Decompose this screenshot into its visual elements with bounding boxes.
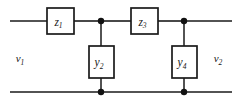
y4-subscript: 4 <box>183 62 187 71</box>
node-bottom-right <box>181 89 187 95</box>
y2-subscript: 2 <box>100 62 104 71</box>
v1-label: v1 <box>16 52 25 67</box>
z3-subscript: 3 <box>142 21 147 30</box>
node-top-left <box>98 18 104 24</box>
series-element-z3[interactable]: z3 <box>131 8 158 34</box>
port-label-v1: v1 <box>16 52 25 67</box>
v1-subscript: 1 <box>21 58 25 67</box>
series-element-z1[interactable]: z1 <box>47 8 74 34</box>
z1-subscript: 1 <box>59 21 63 30</box>
node-bottom-left <box>98 89 104 95</box>
circuit-diagram-canvas: z1 z3 y2 y4 <box>0 0 240 108</box>
shunt-element-y4[interactable]: y4 <box>172 46 197 78</box>
shunt-element-y2[interactable]: y2 <box>89 46 114 78</box>
v2-subscript: 2 <box>219 58 223 67</box>
v2-label: v2 <box>214 52 223 67</box>
port-label-v2: v2 <box>214 52 223 67</box>
node-top-right <box>181 18 187 24</box>
